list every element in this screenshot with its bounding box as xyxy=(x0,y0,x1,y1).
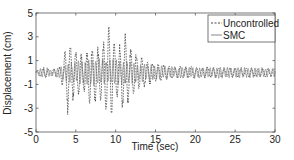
y-tick-label: 1 xyxy=(27,55,33,66)
x-axis-title: Time (sec) xyxy=(132,141,179,152)
legend-label-smc: SMC xyxy=(223,30,245,41)
x-tick-label: 5 xyxy=(73,134,79,145)
y-tick-label: -5 xyxy=(24,127,33,138)
y-tick-label: -3 xyxy=(24,103,33,114)
x-tick-label: 20 xyxy=(190,134,202,145)
y-axis-title: Displacement (cm) xyxy=(2,31,13,114)
x-tick-label: 0 xyxy=(33,134,39,145)
x-tick-label: 10 xyxy=(110,134,122,145)
legend: Uncontrolled SMC xyxy=(208,15,279,42)
x-tick-label: 25 xyxy=(230,134,242,145)
x-tick-label: 30 xyxy=(269,134,281,145)
y-tick-label: 5 xyxy=(27,8,33,19)
y-tick-label: -1 xyxy=(24,79,33,90)
displacement-chart: 051015202530 -5-3-1135 Time (sec) Displa… xyxy=(0,0,294,160)
legend-label-uncontrolled: Uncontrolled xyxy=(223,18,279,29)
y-tick-label: 3 xyxy=(27,31,33,42)
